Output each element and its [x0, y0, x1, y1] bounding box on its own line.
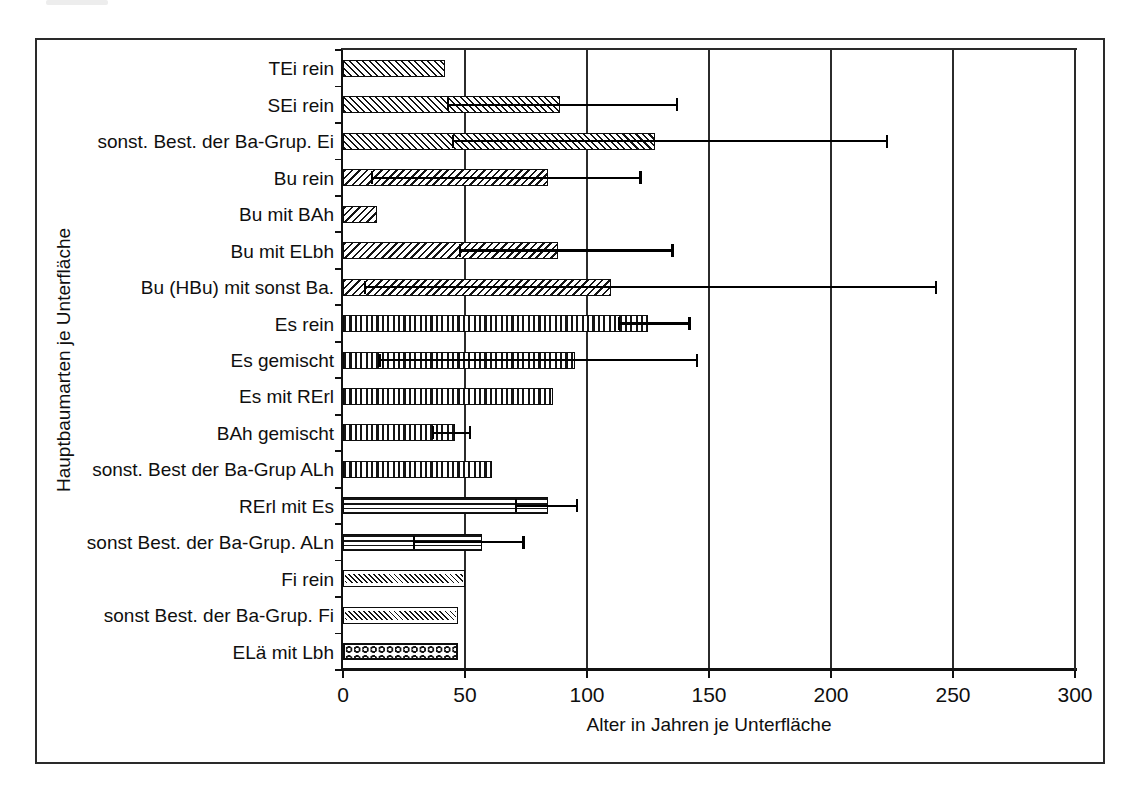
- error-bar-line: [460, 249, 672, 251]
- error-bar-line: [516, 505, 577, 507]
- category-label: Bu (HBu) mit sonst Ba.: [0, 278, 334, 297]
- y-axis-tick: [335, 49, 342, 51]
- error-bar-cap-low: [413, 536, 415, 549]
- category-label: BAh gemischt: [0, 424, 334, 443]
- plot-right-border: [1074, 49, 1076, 670]
- y-axis-tick: [335, 560, 342, 562]
- bar: [343, 570, 465, 587]
- x-tick-label: 50: [425, 684, 505, 705]
- plot-area: [343, 50, 1075, 670]
- y-axis-tick: [335, 633, 342, 635]
- y-axis-tick: [335, 377, 342, 379]
- error-bar-cap-high: [576, 499, 578, 512]
- error-bar-line: [448, 104, 677, 106]
- y-axis-tick: [335, 122, 342, 124]
- x-tick-label: 0: [303, 684, 383, 705]
- error-bar-cap-high: [522, 536, 524, 549]
- error-bar-line: [453, 140, 887, 142]
- y-axis-tick: [335, 86, 342, 88]
- y-axis-tick: [335, 268, 342, 270]
- category-label: TEi rein: [0, 59, 334, 78]
- category-label: Bu rein: [0, 169, 334, 188]
- error-bar-line: [380, 359, 697, 361]
- category-label: Bu mit ELbh: [0, 242, 334, 261]
- y-axis-tick: [335, 596, 342, 598]
- error-bar-cap-low: [432, 426, 434, 439]
- category-label: sonst Best. der Ba-Grup. Fi: [0, 606, 334, 625]
- scanned-bar-chart-figure: Alter in Jahren je Unterfläche Hauptbaum…: [0, 0, 1135, 802]
- x-axis-tick: [952, 670, 954, 678]
- y-axis-tick: [335, 195, 342, 197]
- error-bar-cap-low: [452, 135, 454, 148]
- category-label: Es mit RErl: [0, 387, 334, 406]
- category-label: Es gemischt: [0, 351, 334, 370]
- error-bar-cap-low: [378, 354, 380, 367]
- y-axis-tick: [335, 159, 342, 161]
- plot-top-border: [341, 48, 1077, 50]
- category-label: SEi rein: [0, 96, 334, 115]
- error-bar-cap-high: [696, 354, 698, 367]
- x-axis-tick: [830, 670, 832, 678]
- category-label: sonst. Best. der Ba-Grup. Ei: [0, 132, 334, 151]
- bar: [343, 643, 458, 660]
- y-axis-tick: [335, 669, 342, 671]
- error-bar-cap-low: [364, 281, 366, 294]
- y-axis-tick: [335, 523, 342, 525]
- x-axis-tick: [464, 670, 466, 678]
- x-tick-label: 300: [1035, 684, 1115, 705]
- y-axis-line: [341, 49, 343, 671]
- error-bar-cap-low: [515, 499, 517, 512]
- x-axis-tick: [708, 670, 710, 678]
- error-bar-cap-low: [618, 317, 620, 330]
- y-axis-tick: [335, 304, 342, 306]
- x-tick-label: 200: [791, 684, 871, 705]
- x-axis-tick: [586, 670, 588, 678]
- gridline-x-200: [830, 50, 832, 670]
- bar: [343, 461, 492, 478]
- error-bar-line: [414, 541, 524, 543]
- x-tick-label: 250: [913, 684, 993, 705]
- error-bar-cap-high: [639, 171, 641, 184]
- category-label: ELä mit Lbh: [0, 643, 334, 662]
- y-axis-tick: [335, 231, 342, 233]
- error-bar-line: [433, 432, 470, 434]
- scan-artifact: [46, 0, 108, 5]
- category-label: sonst Best. der Ba-Grup. ALn: [0, 533, 334, 552]
- gridline-x-150: [708, 50, 710, 670]
- category-label: Es rein: [0, 315, 334, 334]
- x-axis-tick: [1074, 670, 1076, 678]
- x-tick-label: 150: [669, 684, 749, 705]
- error-bar-line: [365, 286, 936, 288]
- y-axis-tick: [335, 341, 342, 343]
- bar: [343, 315, 648, 332]
- category-label: RErl mit Es: [0, 497, 334, 516]
- error-bar-cap-low: [371, 171, 373, 184]
- bar: [343, 60, 445, 77]
- error-bar-line: [619, 322, 690, 324]
- error-bar-cap-high: [688, 317, 690, 330]
- error-bar-cap-low: [459, 244, 461, 257]
- x-tick-label: 100: [547, 684, 627, 705]
- category-label: Fi rein: [0, 570, 334, 589]
- x-axis-tick: [342, 670, 344, 678]
- bar: [343, 607, 458, 624]
- error-bar-cap-low: [447, 98, 449, 111]
- bar: [343, 206, 377, 223]
- y-axis-tick: [335, 414, 342, 416]
- error-bar-line: [372, 177, 640, 179]
- error-bar-cap-high: [469, 426, 471, 439]
- error-bar-cap-high: [671, 244, 673, 257]
- x-axis-title: Alter in Jahren je Unterfläche: [343, 714, 1075, 736]
- gridline-x-250: [952, 50, 954, 670]
- category-label: sonst. Best der Ba-Grup ALh: [0, 460, 334, 479]
- category-label: Bu mit BAh: [0, 205, 334, 224]
- error-bar-cap-high: [886, 135, 888, 148]
- y-axis-tick: [335, 487, 342, 489]
- bar: [343, 388, 553, 405]
- error-bar-cap-high: [935, 281, 937, 294]
- y-axis-tick: [335, 450, 342, 452]
- error-bar-cap-high: [676, 98, 678, 111]
